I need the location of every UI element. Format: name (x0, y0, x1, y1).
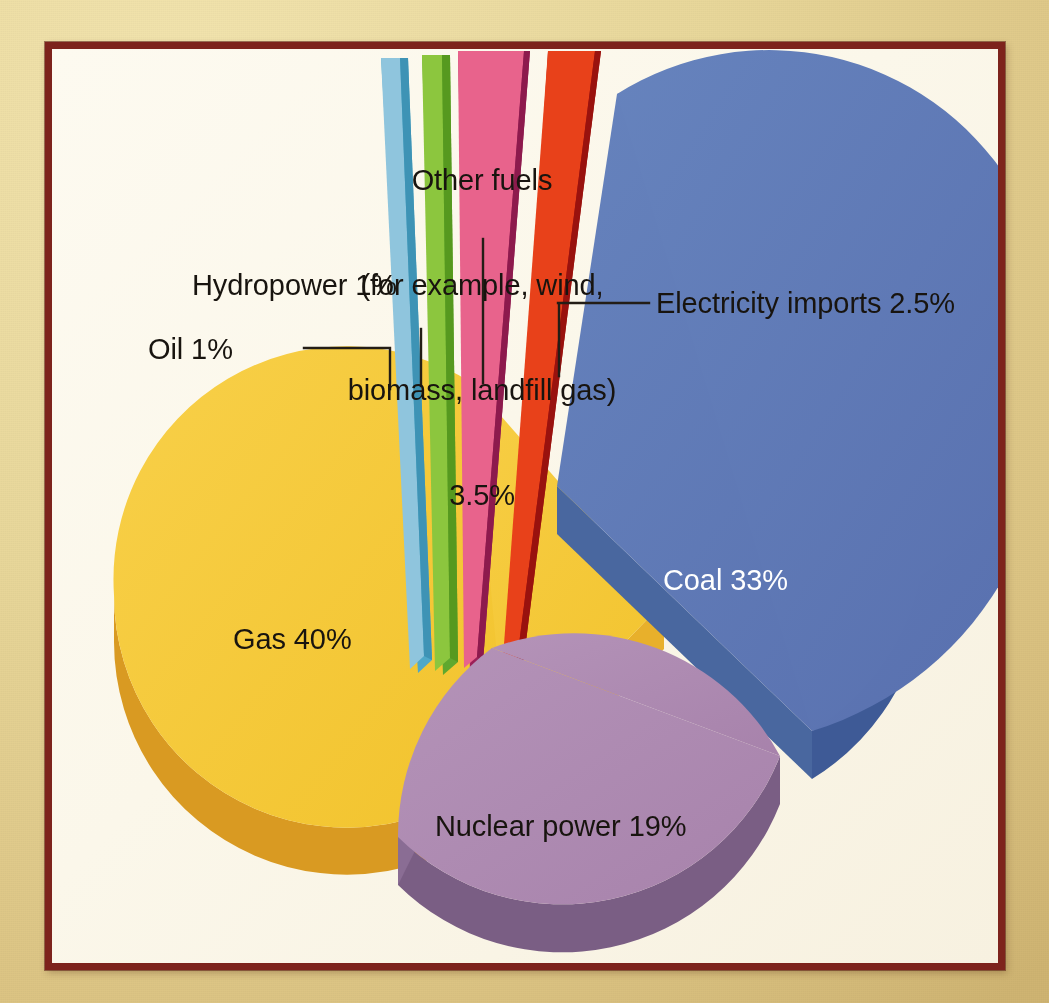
label-other-fuels: Other fuels (for example, wind, biomass,… (332, 93, 632, 583)
label-coal: Coal 33% (663, 564, 788, 597)
figure-panel: Other fuels (for example, wind, biomass,… (52, 49, 998, 963)
label-oil: Oil 1% (148, 332, 308, 367)
label-nuclear: Nuclear power 19% (435, 810, 686, 843)
label-other-fuels-line4: 3.5% (332, 478, 632, 513)
figure-root: Other fuels (for example, wind, biomass,… (0, 0, 1049, 1003)
figure-frame: Other fuels (for example, wind, biomass,… (45, 42, 1005, 970)
label-electricity-imports: Electricity imports 2.5% (656, 286, 998, 321)
label-other-fuels-line1: Other fuels (332, 163, 632, 198)
label-hydropower: Hydropower 1% (192, 268, 452, 303)
label-gas: Gas 40% (233, 623, 352, 656)
label-other-fuels-line3: biomass, landfill gas) (332, 373, 632, 408)
